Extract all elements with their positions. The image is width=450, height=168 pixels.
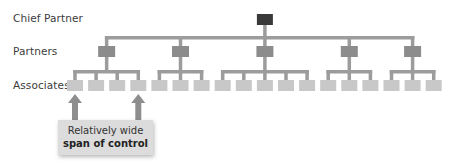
associate-box	[341, 80, 357, 91]
associate-box	[320, 80, 336, 91]
associate-box	[299, 80, 315, 91]
connector-line	[284, 70, 288, 80]
partner-box	[404, 46, 421, 57]
connector-line	[348, 70, 352, 80]
associate-box	[194, 80, 210, 91]
boxes	[67, 14, 442, 91]
connector-line	[200, 70, 204, 80]
associate-box	[109, 80, 125, 91]
connector-line	[432, 70, 436, 80]
connector-line	[105, 36, 414, 40]
connector-line	[348, 57, 352, 70]
associate-box	[257, 80, 273, 91]
associate-box	[151, 80, 167, 91]
connector-line	[158, 70, 162, 80]
connector-line	[263, 70, 267, 80]
callout-line1: Relatively wide	[58, 124, 153, 137]
connector-line	[179, 57, 183, 70]
associate-box	[362, 80, 378, 91]
connector-line	[73, 70, 140, 74]
connector-line	[221, 70, 225, 80]
associate-box	[67, 80, 83, 91]
up-arrow-icon	[68, 94, 82, 121]
connector-line	[94, 70, 98, 80]
partner-box	[98, 46, 115, 57]
connectors	[73, 25, 435, 80]
associate-box	[278, 80, 294, 91]
up-arrow-icon	[131, 94, 145, 121]
connector-line	[369, 70, 373, 80]
partner-box	[172, 46, 189, 57]
connector-line	[263, 25, 267, 36]
associate-box	[236, 80, 252, 91]
associate-box	[173, 80, 189, 91]
connector-line	[411, 70, 415, 80]
connector-line	[73, 70, 77, 80]
associate-box	[405, 80, 421, 91]
partner-box	[341, 46, 358, 57]
chief-partner-box	[257, 14, 273, 25]
connector-line	[115, 70, 119, 80]
associate-box	[384, 80, 400, 91]
connector-line	[263, 57, 267, 70]
span-of-control-callout: Relatively wide span of control	[58, 120, 153, 155]
connector-line	[411, 57, 415, 70]
associate-box	[426, 80, 442, 91]
arrows	[68, 94, 145, 121]
connector-line	[390, 70, 394, 80]
connector-line	[105, 57, 109, 70]
connector-line	[179, 70, 183, 80]
associate-box	[215, 80, 231, 91]
associate-box	[130, 80, 146, 91]
associate-box	[88, 80, 104, 91]
callout-line2: span of control	[58, 137, 153, 150]
connector-line	[326, 70, 330, 80]
partner-box	[256, 46, 273, 57]
connector-line	[242, 70, 246, 80]
connector-line	[305, 70, 309, 80]
connector-line	[137, 70, 141, 80]
